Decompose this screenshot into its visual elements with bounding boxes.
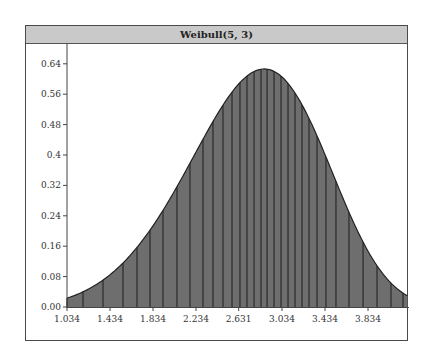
x-tick-label: 3.834 (355, 314, 381, 324)
y-tick-label: 0.48 (41, 120, 61, 130)
y-tick-label: 0.56 (41, 89, 61, 99)
density-area (67, 69, 407, 307)
x-tick-label: 1.434 (97, 314, 123, 324)
density-plot: 0.000.080.160.240.320.40.480.560.641.034… (26, 26, 409, 342)
y-tick-label: 0.24 (41, 211, 61, 221)
chart-frame: Weibull(5, 3) 0.000.080.160.240.320.40.4… (25, 25, 408, 341)
y-tick-label: 0.00 (41, 302, 61, 312)
x-tick-label: 1.034 (54, 314, 80, 324)
y-tick-label: 0.16 (41, 241, 61, 251)
x-tick-label: 1.834 (140, 314, 166, 324)
y-tick-label: 0.4 (47, 150, 62, 160)
y-tick-label: 0.08 (41, 272, 61, 282)
y-tick-label: 0.64 (41, 59, 61, 69)
x-tick-label: 2.234 (183, 314, 209, 324)
x-tick-label: 3.034 (269, 314, 295, 324)
x-tick-label: 2.631 (226, 314, 252, 324)
y-tick-label: 0.32 (41, 180, 61, 190)
x-tick-label: 3.434 (312, 314, 338, 324)
